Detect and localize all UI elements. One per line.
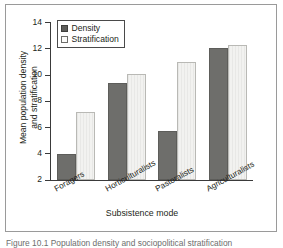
y-tick-8 (45, 101, 50, 102)
x-axis-title: Subsistence mode (6, 208, 278, 218)
legend-swatch-density-icon (61, 25, 68, 32)
legend: Density Stratification (57, 20, 125, 48)
y-axis-line (50, 22, 51, 181)
y-tick-label-14: 14 (18, 18, 42, 27)
legend-label-density: Density (72, 24, 101, 33)
y-tick-12 (45, 48, 50, 49)
legend-item-stratification: Stratification (61, 34, 119, 45)
y-tick-label-2: 2 (18, 175, 42, 184)
y-axis-title-line1: Mean population density (18, 28, 29, 168)
bar-pastoralists-stratification (177, 62, 196, 180)
y-tick-10 (45, 75, 50, 76)
y-tick-2 (45, 180, 50, 181)
y-tick-4 (45, 153, 50, 154)
plot-area: 2468101214 Mean population density and s… (6, 5, 278, 233)
figure-caption: Figure 10.1 Population density and socio… (6, 238, 278, 248)
bar-agriculturalists-density (209, 48, 228, 180)
bar-agriculturalists-stratification (228, 45, 247, 180)
y-axis-title-line2: and stratification (28, 28, 39, 168)
legend-item-density: Density (61, 23, 119, 34)
legend-swatch-stratification-icon (61, 36, 68, 43)
y-tick-14 (45, 22, 50, 23)
bar-horticulturalists-density (108, 83, 127, 180)
legend-label-stratification: Stratification (72, 35, 119, 44)
y-axis-title: Mean population density and stratificati… (18, 28, 39, 168)
figure: 2468101214 Mean population density and s… (0, 0, 283, 248)
y-tick-6 (45, 127, 50, 128)
chart-panel: 2468101214 Mean population density and s… (5, 4, 277, 232)
